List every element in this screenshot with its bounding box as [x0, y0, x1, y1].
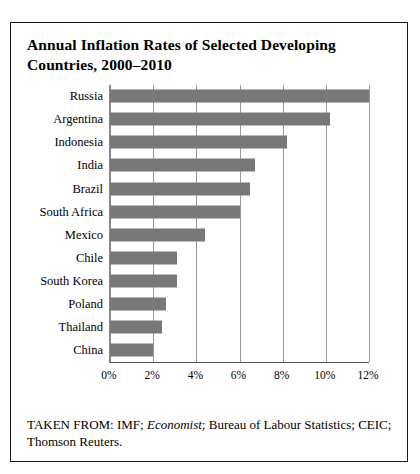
gridline: [240, 85, 241, 362]
value-axis-tick-label: 4%: [188, 369, 203, 381]
category-label: Mexico: [65, 228, 103, 241]
bar: [110, 274, 177, 287]
plot-area: [109, 85, 369, 363]
bar: [110, 297, 166, 310]
value-axis-tick-label: 6%: [231, 369, 246, 381]
category-axis-labels: RussiaArgentinaIndonesiaIndiaBrazilSouth…: [11, 85, 109, 363]
gridline: [326, 85, 327, 362]
category-label: China: [73, 344, 103, 357]
chart-area: RussiaArgentinaIndonesiaIndiaBrazilSouth…: [11, 85, 407, 395]
chart-title: Annual Inflation Rates of Selected Devel…: [11, 23, 407, 75]
value-axis-ticks: 0%2%4%6%8%10%12%: [109, 365, 369, 385]
category-label: Russia: [70, 90, 103, 103]
bar: [110, 344, 153, 357]
category-label: Thailand: [59, 321, 103, 334]
source-italic-title: Economist: [147, 417, 202, 432]
bar: [110, 159, 255, 172]
bar: [110, 228, 205, 241]
category-label: South Korea: [40, 275, 103, 288]
value-axis-tick-label: 8%: [274, 369, 289, 381]
gridline: [369, 85, 370, 362]
category-label: Argentina: [53, 113, 103, 126]
category-label: Indonesia: [54, 136, 103, 149]
figure-panel: Annual Inflation Rates of Selected Devel…: [10, 22, 408, 462]
category-label: Poland: [68, 298, 103, 311]
value-axis-tick-label: 10%: [314, 369, 335, 381]
gridline: [283, 85, 284, 362]
bar: [110, 205, 240, 218]
bar: [110, 182, 250, 195]
value-axis-tick-label: 12%: [357, 369, 378, 381]
source-citation: TAKEN FROM: IMF; Economist; Bureau of La…: [11, 416, 407, 461]
value-axis-tick-label: 0%: [101, 369, 116, 381]
bar: [110, 321, 162, 334]
bar: [110, 113, 330, 126]
category-label: South Africa: [39, 205, 103, 218]
source-prefix: TAKEN FROM: IMF;: [27, 417, 147, 432]
category-label: India: [77, 159, 103, 172]
bar: [110, 251, 177, 264]
bar: [110, 90, 369, 103]
category-label: Brazil: [72, 182, 103, 195]
gridline: [196, 85, 197, 362]
value-axis-tick-label: 2%: [144, 369, 159, 381]
category-label: Chile: [76, 252, 103, 265]
bar: [110, 136, 287, 149]
